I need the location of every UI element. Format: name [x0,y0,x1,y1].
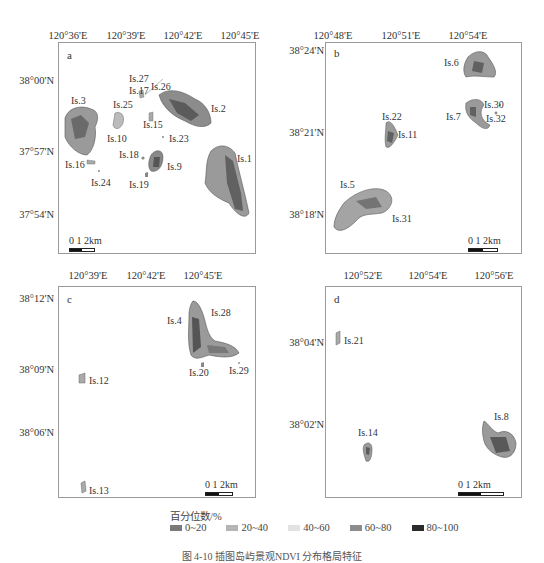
island-label: Is.25 [113,99,133,110]
scale-bar-labels: 0 1 2km [205,479,238,490]
island-label: Is.1 [237,153,252,164]
legend-swatch [350,525,362,531]
map-panel-a: a Is.3 Is.27 Is.17 Is.26 Is.25 [58,42,256,254]
y-tick-label: 38°00'N [0,75,54,86]
x-tick-label: 120°52'E [344,270,383,281]
x-tick-label: 120°42'E [164,30,203,41]
x-tick-label: 120°54'E [409,270,448,281]
legend-swatch [170,525,182,531]
x-tick-label: 120°48'E [314,30,353,41]
island-label: Is.14 [358,427,378,438]
island-label: Is.30 [484,99,504,110]
legend-label: 0~20 [185,522,206,533]
y-tick-label: 37°54'N [0,209,54,220]
island-label: Is.8 [494,411,509,422]
legend-item: 80~100 [412,522,459,533]
y-tick-label: 37°57'N [0,146,54,157]
island-label: Is.2 [211,103,226,114]
legend-item: 60~80 [350,522,392,533]
x-tick-label: 120°45'E [184,270,223,281]
island-label: Is.3 [71,95,86,106]
island-shapes-a [59,43,257,255]
island-label: Is.11 [398,129,417,140]
island-label: Is.27 [129,73,149,84]
map-panel-c: c Is.4 Is.28 Is.20 Is.29 Is.12 Is.13 0 1… [58,286,256,498]
figure-caption: 图 4-10 插图岛屿景观NDVI 分布格局特征 [0,548,544,563]
legend-item: 40~60 [288,522,330,533]
y-tick-label: 38°12'N [0,293,54,304]
island-shapes-d [326,287,523,499]
legend-label: 80~100 [427,522,459,533]
map-panel-d: d Is.21 Is.14 Is.8 0 1 2km [325,286,522,498]
legend-swatch [226,525,238,531]
legend-swatch [288,525,300,531]
island-label: Is.7 [446,111,461,122]
legend-title: 百分位数/% [170,508,222,523]
island-shapes-b [326,43,523,255]
island-label: Is.26 [151,81,171,92]
scale-bar-labels: 0 1 2km [458,479,491,490]
x-tick-label: 120°39'E [107,30,146,41]
legend-item: 0~20 [170,522,206,533]
map-panel-b: b Is.6 Is.30 Is.7 Is.32 Is.22 Is.11 Is.5… [325,42,522,254]
island-label: Is.29 [229,365,249,376]
legend-label: 40~60 [303,522,330,533]
island-label: Is.21 [344,335,364,346]
x-tick-label: 120°54'E [449,30,488,41]
island-label: Is.12 [89,375,109,386]
scale-bar-labels: 0 1 2km [69,235,102,246]
legend-swatch [412,525,424,531]
y-tick-label: 38°06'N [0,427,54,438]
x-tick-label: 120°42'E [127,270,166,281]
island-label: Is.9 [167,161,182,172]
x-tick-label: 120°39'E [69,270,108,281]
y-tick-label: 38°09'N [0,364,54,375]
scale-bar-labels: 0 1 2km [468,235,501,246]
island-label: Is.6 [444,57,459,68]
island-label: Is.20 [189,367,209,378]
island-label: Is.28 [211,307,231,318]
x-tick-label: 120°56'E [475,270,514,281]
x-tick-label: 120°36'E [49,30,88,41]
y-tick-label: 38°18'N [260,209,324,220]
y-tick-label: 38°24'N [260,45,324,56]
island-label: Is.13 [89,485,109,496]
legend-label: 20~40 [241,522,268,533]
x-tick-label: 120°51'E [382,30,421,41]
island-label: Is.22 [382,111,402,122]
island-label: Is.24 [91,177,111,188]
island-label: Is.31 [392,213,412,224]
legend-item: 20~40 [226,522,268,533]
legend-label: 60~80 [365,522,392,533]
island-label: Is.19 [129,179,149,190]
y-tick-label: 38°04'N [260,337,324,348]
island-label: Is.18 [119,149,139,160]
island-label: Is.4 [167,315,182,326]
island-label: Is.32 [486,113,506,124]
island-label: Is.5 [340,179,355,190]
island-shapes-c [59,287,257,499]
island-label: Is.10 [107,133,127,144]
island-label: Is.17 [129,85,149,96]
island-label: Is.23 [169,133,189,144]
legend: 0~20 20~40 40~60 60~80 80~100 [170,522,458,533]
island-label: Is.15 [143,119,163,130]
y-tick-label: 38°02'N [260,419,324,430]
y-tick-label: 38°21'N [260,127,324,138]
x-tick-label: 120°45'E [221,30,260,41]
island-label: Is.16 [65,159,85,170]
